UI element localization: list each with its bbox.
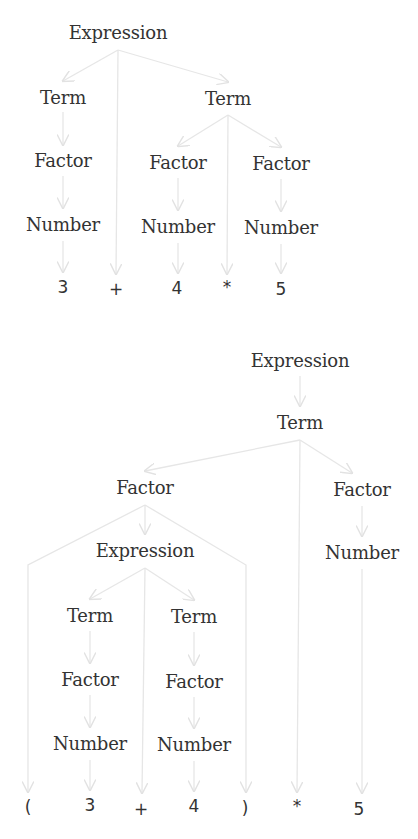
token-5: 5 [276, 279, 287, 299]
edge-expr2-term1 [90, 568, 145, 599]
node-number: Number [53, 733, 127, 754]
node-number: Number [26, 214, 100, 235]
token-times: * [223, 277, 232, 297]
node-expression: Expression [251, 350, 350, 371]
edge-expr2-term2 [145, 568, 194, 600]
token-rparen: ) [242, 798, 249, 818]
edge-expression-term-right [118, 50, 228, 82]
node-number: Number [157, 734, 231, 755]
node-factor: Factor [252, 153, 310, 174]
node-expression: Expression [69, 22, 168, 43]
token-plus: + [109, 279, 123, 299]
edge-term-factor-left [145, 440, 300, 471]
node-number: Number [244, 217, 318, 238]
node-term: Term [67, 605, 113, 626]
edge-expression-plus [116, 50, 118, 274]
node-factor: Factor [34, 150, 92, 171]
node-factor: Factor [149, 152, 207, 173]
token-3: 3 [85, 795, 96, 815]
edge-term-factor-right [300, 440, 352, 473]
token-times: * [293, 796, 302, 816]
node-term: Term [277, 412, 323, 433]
edge-term2-factor3 [228, 115, 281, 147]
token-plus: + [134, 799, 148, 819]
node-factor: Factor [61, 669, 119, 690]
token-4: 4 [172, 278, 183, 298]
node-term: Term [171, 606, 217, 627]
node-factor: Factor [116, 477, 174, 498]
node-number: Number [325, 542, 399, 563]
node-number: Number [141, 216, 215, 237]
node-term: Term [205, 88, 251, 109]
tree-edges [0, 0, 418, 839]
edge-expression-term-left [63, 50, 118, 81]
token-lparen: ( [25, 797, 32, 817]
node-factor: Factor [165, 671, 223, 692]
token-5: 5 [354, 799, 365, 819]
edge-term2-times [227, 115, 228, 274]
node-expression: Expression [96, 540, 195, 561]
token-3: 3 [58, 277, 69, 297]
token-4: 4 [189, 796, 200, 816]
node-factor: Factor [333, 479, 391, 500]
node-term: Term [40, 87, 86, 108]
edge-term2-factor2 [178, 115, 228, 146]
edge-expr2-plus [142, 568, 145, 793]
edge-term-times [297, 440, 300, 792]
